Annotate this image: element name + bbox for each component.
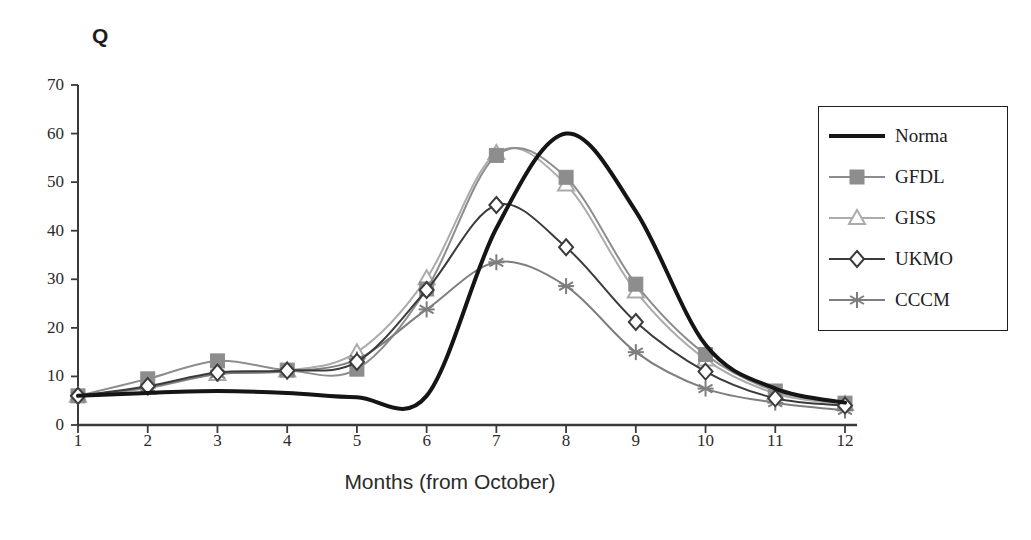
x-axis-title: Months (from October) <box>0 470 900 494</box>
x-axis-tick-label: 5 <box>342 432 372 449</box>
legend-item-cccm[interactable]: CCCM <box>819 283 1009 317</box>
x-axis-tick-label: 1 <box>63 432 93 449</box>
x-axis-tick-label: 2 <box>133 432 163 449</box>
legend-item-gfdl[interactable]: GFDL <box>819 160 1009 194</box>
series-cccm <box>70 254 853 418</box>
y-axis-tick-label: 20 <box>20 319 64 336</box>
legend-swatch-gfdl <box>819 160 895 194</box>
y-axis-tick-label: 40 <box>20 222 64 239</box>
x-axis-tick-label: 6 <box>412 432 442 449</box>
legend-label: GISS <box>895 207 936 229</box>
legend-label: GFDL <box>895 166 945 188</box>
legend-item-ukmo[interactable]: UKMO <box>819 242 1009 276</box>
chart-figure: Q 010203040506070 123456789101112 Months… <box>0 0 1031 540</box>
y-axis-tick-label: 10 <box>20 367 64 384</box>
legend-item-norma[interactable]: Norma <box>819 119 1009 153</box>
y-axis-tick-label: 0 <box>20 416 64 433</box>
x-axis-tick-label: 12 <box>830 432 860 449</box>
legend-swatch-norma <box>819 119 895 153</box>
x-axis-tick-label: 9 <box>621 432 651 449</box>
legend-label: CCCM <box>895 289 950 311</box>
x-axis-tick-label: 8 <box>551 432 581 449</box>
y-axis-tick-label: 70 <box>20 76 64 93</box>
series-norma <box>78 133 845 408</box>
legend-label: Norma <box>895 125 948 147</box>
x-axis-tick-label: 7 <box>481 432 511 449</box>
plot-canvas <box>0 0 900 470</box>
y-axis-tick-label: 30 <box>20 270 64 287</box>
x-axis-tick-label: 3 <box>202 432 232 449</box>
y-axis-tick-label: 60 <box>20 125 64 142</box>
x-axis-tick-label: 4 <box>272 432 302 449</box>
plot-area: 010203040506070 123456789101112 <box>0 0 900 470</box>
legend-swatch-cccm <box>819 283 895 317</box>
x-axis-tick-label: 11 <box>760 432 790 449</box>
series-ukmo <box>71 197 852 414</box>
legend-swatch-ukmo <box>819 242 895 276</box>
legend-item-giss[interactable]: GISS <box>819 201 1009 235</box>
y-axis-tick-label: 50 <box>20 173 64 190</box>
chart-legend: NormaGFDLGISSUKMOCCCM <box>818 106 1008 331</box>
x-axis-tick-label: 10 <box>691 432 721 449</box>
legend-label: UKMO <box>895 248 953 270</box>
legend-swatch-giss <box>819 201 895 235</box>
